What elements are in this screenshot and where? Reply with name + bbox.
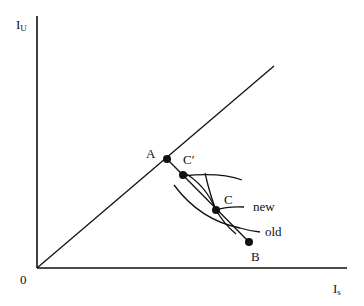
y-axis-label: IU <box>16 17 27 33</box>
label-c: C <box>224 192 233 207</box>
label-c-prime: C′ <box>183 152 195 167</box>
x-axis-label: Is <box>333 281 341 297</box>
label-new: new <box>253 199 275 214</box>
origin-label: 0 <box>20 272 27 287</box>
point-b <box>245 238 253 246</box>
point-a <box>163 155 171 163</box>
diagonal-line <box>37 66 274 268</box>
point-c <box>212 206 220 214</box>
label-a: A <box>146 146 156 161</box>
label-old: old <box>265 224 282 239</box>
label-b: B <box>251 249 260 264</box>
segment-a-b <box>167 159 249 242</box>
diagram-canvas: IU Is 0 A C′ C B new old <box>0 0 364 306</box>
point-c-prime <box>179 171 187 179</box>
